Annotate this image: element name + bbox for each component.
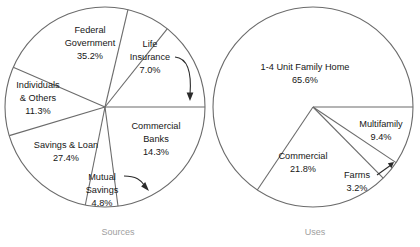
uses-label-multifamily: Multifamily: [359, 119, 403, 129]
two-pie-chart-figure: Federal Government 35.2% Life Insurance …: [0, 0, 420, 247]
sources-value-life-insurance: 7.0%: [140, 65, 161, 75]
uses-value-commercial: 21.8%: [290, 164, 316, 174]
uses-pie-chart: 1-4 Unit Family Home 65.6% Multifamily 9…: [213, 7, 413, 237]
sources-label-mutual-savings-line2: Savings: [86, 185, 119, 195]
sources-label-federal-government-line2: Government: [65, 38, 116, 48]
sources-pie-chart: Federal Government 35.2% Life Insurance …: [5, 7, 205, 237]
uses-label-commercial: Commercial: [278, 151, 327, 161]
sources-caption: Sources: [101, 227, 135, 237]
uses-value-farms: 3.2%: [347, 183, 368, 193]
sources-value-savings-loan: 27.4%: [53, 153, 79, 163]
sources-value-individuals-others: 11.3%: [25, 106, 50, 116]
uses-label-farms: Farms: [344, 170, 370, 180]
uses-caption: Uses: [305, 227, 326, 237]
sources-label-savings-loan: Savings & Loan: [34, 140, 98, 150]
uses-value-multifamily: 9.4%: [371, 132, 392, 142]
uses-label-family-home: 1-4 Unit Family Home: [261, 62, 350, 72]
sources-value-commercial-banks: 14.3%: [143, 147, 169, 157]
sources-value-mutual-savings: 4.8%: [92, 198, 113, 208]
sources-label-mutual-savings-line1: Mutual: [88, 172, 116, 182]
sources-label-individuals-others-line2: & Others: [20, 93, 57, 103]
sources-label-individuals-others-line1: Individuals: [16, 80, 60, 90]
sources-label-life-insurance-line1: Life: [143, 39, 158, 49]
sources-label-commercial-banks-line1: Commercial: [131, 121, 180, 131]
uses-value-family-home: 65.6%: [292, 75, 318, 85]
sources-label-commercial-banks-line2: Banks: [143, 134, 169, 144]
sources-value-federal-government: 35.2%: [77, 51, 103, 61]
sources-label-life-insurance-line2: Insurance: [130, 52, 170, 62]
sources-label-federal-government-line1: Federal: [74, 25, 105, 35]
